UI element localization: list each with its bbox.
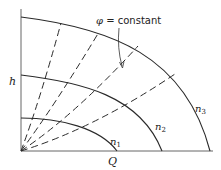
y-axis-label: h [9, 75, 16, 88]
pump-characteristic-diagram: φ = constant h Q n1 n2 n3 [0, 0, 221, 170]
curve-n2 [21, 75, 162, 151]
curve-label-n2: n2 [155, 121, 166, 134]
phi-symbol: φ [96, 15, 103, 26]
phi-constant-label: φ = constant [96, 15, 161, 26]
curve-label-n1: n1 [110, 136, 121, 149]
annotation-arrow [118, 28, 122, 66]
dashed-phi-line-4 [21, 74, 175, 151]
dashed-phi-line-1 [21, 23, 61, 151]
dashed-phi-line-2 [21, 32, 99, 151]
constant-text: = constant [103, 15, 161, 26]
x-axis-label: Q [108, 155, 117, 168]
